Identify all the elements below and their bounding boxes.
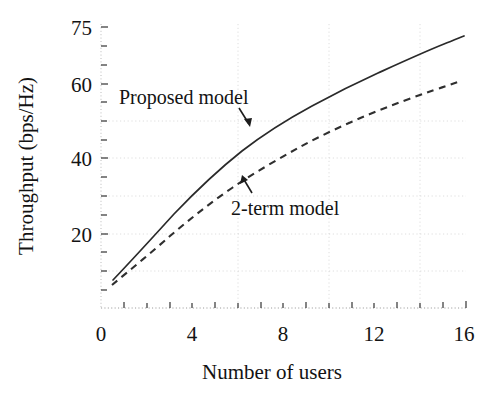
x-tick-label-8: 8 [278,322,289,346]
x-tick-label-16: 16 [454,322,475,346]
y-tick-label-75: 75 [71,16,92,40]
y-axis-title: Throughput (bps/Hz) [14,77,38,255]
annotation-label-2-term-model: 2-term model [231,197,340,219]
series-line-2-term-model [112,82,458,285]
x-axis-title: Number of users [202,360,342,384]
x-tick-label-12: 12 [364,322,385,346]
y-axis [101,24,108,308]
y-tick-label-40: 40 [71,147,92,171]
y-tick-label-60: 60 [71,73,92,97]
x-axis [101,301,466,308]
annotation-label-proposed-model: Proposed model [119,86,249,109]
throughput-chart-figure: 75 60 40 20 0 4 8 12 16 Throughput (bps/… [0,0,490,396]
annotation-arrow-proposed-model [239,108,252,127]
x-axis-ticks [124,301,466,308]
chart-canvas: 75 60 40 20 0 4 8 12 16 Throughput (bps/… [0,0,490,396]
x-tick-label-4: 4 [187,322,198,346]
y-axis-ticks [101,27,108,290]
grid-lines [101,24,466,308]
y-tick-label-20: 20 [71,223,92,247]
x-tick-label-0: 0 [96,322,107,346]
annotation-arrow-2-term-model [240,175,252,193]
